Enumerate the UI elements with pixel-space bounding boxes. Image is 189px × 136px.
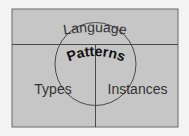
label-instances: Instances [108, 81, 168, 97]
patterns-diagram: Language Patterns Types Instances [0, 0, 189, 136]
label-types: Types [34, 81, 71, 97]
